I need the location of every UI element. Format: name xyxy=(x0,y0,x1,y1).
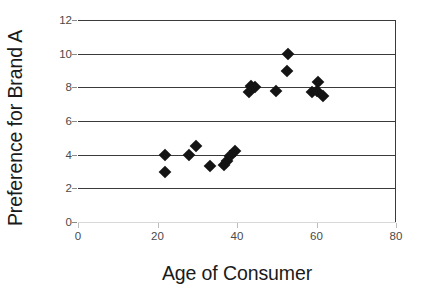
x-tick-label-20: 20 xyxy=(138,230,178,242)
x-tick-label-40: 40 xyxy=(217,230,257,242)
plot-right-border xyxy=(395,20,396,223)
x-tick-label-80: 80 xyxy=(376,230,416,242)
data-point xyxy=(281,64,294,77)
y-tick-label-4: 4 xyxy=(42,149,72,161)
x-tick-label-60: 60 xyxy=(297,230,337,242)
y-axis-tick-labels: 121086420 xyxy=(40,20,72,222)
gridline-y-2 xyxy=(78,188,396,189)
y-tick-label-12: 12 xyxy=(42,14,72,26)
gridline-y-10 xyxy=(78,54,396,55)
x-tick-mark-0 xyxy=(78,223,79,228)
data-point xyxy=(158,165,171,178)
data-point xyxy=(270,84,283,97)
y-tick-mark-2 xyxy=(72,188,77,189)
y-tick-mark-4 xyxy=(72,155,77,156)
x-axis-title: Age of Consumer xyxy=(78,262,396,285)
y-tick-mark-10 xyxy=(72,54,77,55)
y-tick-label-6: 6 xyxy=(42,115,72,127)
scatter-chart: Preference for Brand A 121086420 0204060… xyxy=(0,0,423,298)
x-tick-mark-80 xyxy=(396,223,397,228)
plot-area xyxy=(78,20,396,222)
y-tick-label-2: 2 xyxy=(42,182,72,194)
y-tick-mark-0 xyxy=(72,222,77,223)
x-axis-tick-labels: 020406080 xyxy=(78,230,396,246)
gridline-y-6 xyxy=(78,121,396,122)
y-tick-mark-6 xyxy=(72,121,77,122)
data-point xyxy=(158,148,171,161)
data-point xyxy=(204,160,217,173)
y-tick-mark-12 xyxy=(72,20,77,21)
gridline-y-12 xyxy=(78,20,396,21)
gridline-y-8 xyxy=(78,87,396,88)
y-tick-label-0: 0 xyxy=(42,216,72,228)
data-point xyxy=(282,47,295,60)
x-tick-mark-20 xyxy=(158,223,159,228)
x-tick-mark-60 xyxy=(317,223,318,228)
y-axis-title: Preference for Brand A xyxy=(0,8,30,248)
x-tick-mark-40 xyxy=(237,223,238,228)
y-tick-mark-8 xyxy=(72,87,77,88)
y-tick-label-10: 10 xyxy=(42,48,72,60)
y-tick-label-8: 8 xyxy=(42,81,72,93)
x-tick-label-0: 0 xyxy=(58,230,98,242)
